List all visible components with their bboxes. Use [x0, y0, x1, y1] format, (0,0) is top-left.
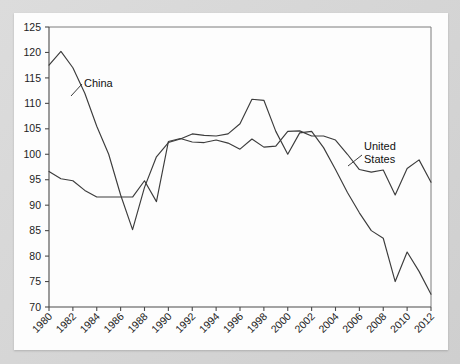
y-tick-label: 90: [29, 199, 41, 211]
y-tick-label: 105: [23, 122, 41, 134]
y-tick-label: 115: [24, 72, 41, 84]
united-states-series-label-line1: United: [364, 140, 396, 152]
y-tick-label: 75: [29, 275, 41, 287]
y-tick-label: 110: [24, 97, 41, 109]
y-tick-label: 100: [23, 148, 41, 160]
y-tick-label: 120: [23, 46, 41, 58]
y-tick-label: 125: [23, 21, 41, 33]
china-series-label: China: [84, 77, 114, 89]
line-chart: 707580859095100105110115120125 198019821…: [14, 13, 448, 350]
chart-background: [14, 13, 448, 350]
y-tick-label: 80: [29, 250, 41, 262]
united-states-series-label-line2: States: [364, 153, 396, 165]
chart-card: 707580859095100105110115120125 198019821…: [14, 13, 448, 350]
screenshot-root: 707580859095100105110115120125 198019821…: [0, 0, 460, 364]
y-tick-label: 85: [29, 224, 41, 236]
y-tick-label: 70: [29, 301, 41, 313]
y-tick-label: 95: [29, 173, 41, 185]
